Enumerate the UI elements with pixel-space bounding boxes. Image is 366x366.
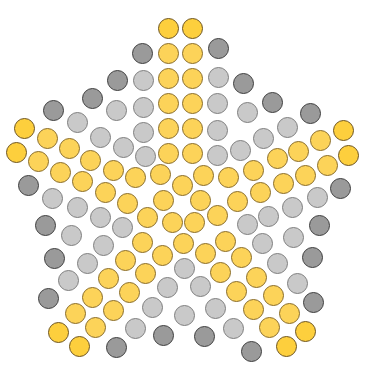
piece-dark[interactable] [43,100,64,121]
piece-dark[interactable] [208,38,229,59]
piece-yellow[interactable] [152,245,173,266]
piece-dark[interactable] [153,325,174,346]
piece-yellow[interactable] [115,250,136,271]
piece-gray[interactable] [133,70,154,91]
piece-gray[interactable] [93,235,114,256]
piece-yellow[interactable] [243,299,264,320]
piece-gray[interactable] [113,137,134,158]
piece-gold[interactable] [295,321,316,342]
piece-gray[interactable] [67,112,88,133]
piece-dark[interactable] [44,248,65,269]
piece-yellow[interactable] [28,151,49,172]
piece-gold[interactable] [69,336,90,357]
piece-gray[interactable] [258,206,279,227]
piece-yellow[interactable] [273,173,294,194]
piece-yellow[interactable] [267,148,288,169]
piece-dark[interactable] [262,92,283,113]
piece-yellow[interactable] [80,150,101,171]
piece-yellow[interactable] [72,171,93,192]
piece-yellow[interactable] [218,167,239,188]
piece-gray[interactable] [58,270,79,291]
piece-dark[interactable] [330,178,351,199]
piece-gray[interactable] [90,207,111,228]
piece-gray[interactable] [287,273,308,294]
piece-yellow[interactable] [37,128,58,149]
piece-yellow[interactable] [98,268,119,289]
piece-gray[interactable] [205,298,226,319]
piece-gray[interactable] [283,227,304,248]
piece-yellow[interactable] [158,143,179,164]
piece-dark[interactable] [241,341,262,362]
piece-yellow[interactable] [226,281,247,302]
piece-gray[interactable] [207,120,228,141]
piece-gray[interactable] [174,258,195,279]
piece-gray[interactable] [230,140,251,161]
piece-yellow[interactable] [250,182,271,203]
piece-dark[interactable] [303,292,324,313]
piece-gray[interactable] [67,197,88,218]
piece-gold[interactable] [276,336,297,357]
piece-yellow[interactable] [210,262,231,283]
piece-yellow[interactable] [243,160,264,181]
piece-yellow[interactable] [182,143,203,164]
piece-yellow[interactable] [132,232,153,253]
piece-gray[interactable] [207,93,228,114]
piece-yellow[interactable] [153,190,174,211]
piece-gold[interactable] [338,145,359,166]
piece-gray[interactable] [282,197,303,218]
piece-gray[interactable] [112,217,133,238]
piece-gray[interactable] [77,253,98,274]
piece-gray[interactable] [157,277,178,298]
piece-yellow[interactable] [184,212,205,233]
piece-gold[interactable] [182,18,203,39]
piece-yellow[interactable] [317,155,338,176]
piece-gray[interactable] [253,128,274,149]
piece-gray[interactable] [237,102,258,123]
piece-dark[interactable] [82,88,103,109]
piece-gold[interactable] [14,118,35,139]
piece-yellow[interactable] [288,141,309,162]
piece-gray[interactable] [42,188,63,209]
piece-gray[interactable] [174,305,195,326]
piece-yellow[interactable] [295,165,316,186]
piece-yellow[interactable] [231,247,252,268]
piece-yellow[interactable] [227,191,248,212]
piece-yellow[interactable] [182,43,203,64]
piece-yellow[interactable] [310,130,331,151]
piece-yellow[interactable] [103,300,124,321]
piece-yellow[interactable] [263,285,284,306]
piece-gold[interactable] [333,120,354,141]
piece-dark[interactable] [38,288,59,309]
piece-gray[interactable] [208,67,229,88]
piece-gray[interactable] [223,318,244,339]
piece-gray[interactable] [133,122,154,143]
piece-yellow[interactable] [207,205,228,226]
piece-gold[interactable] [48,322,69,343]
piece-yellow[interactable] [65,303,86,324]
piece-yellow[interactable] [173,233,194,254]
piece-yellow[interactable] [158,118,179,139]
piece-yellow[interactable] [50,162,71,183]
piece-yellow[interactable] [150,164,171,185]
piece-gold[interactable] [158,18,179,39]
piece-yellow[interactable] [158,43,179,64]
piece-yellow[interactable] [119,282,140,303]
piece-yellow[interactable] [193,165,214,186]
piece-gray[interactable] [267,253,288,274]
piece-gray[interactable] [135,146,156,167]
piece-yellow[interactable] [182,118,203,139]
piece-dark[interactable] [300,103,321,124]
piece-dark[interactable] [18,175,39,196]
piece-dark[interactable] [302,247,323,268]
piece-yellow[interactable] [158,68,179,89]
piece-gray[interactable] [125,318,146,339]
piece-yellow[interactable] [190,190,211,211]
piece-yellow[interactable] [117,193,138,214]
piece-yellow[interactable] [158,93,179,114]
piece-dark[interactable] [132,43,153,64]
piece-gray[interactable] [307,187,328,208]
piece-yellow[interactable] [95,182,116,203]
piece-dark[interactable] [35,215,56,236]
piece-gray[interactable] [142,297,163,318]
piece-dark[interactable] [194,326,215,347]
